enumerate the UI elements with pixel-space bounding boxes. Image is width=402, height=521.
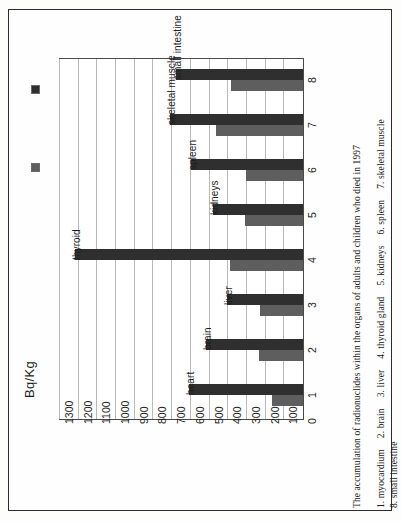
category-band — [60, 194, 303, 239]
caption-key-item: 8. small intestine — [389, 67, 399, 508]
plot-area — [59, 58, 304, 420]
bar-children — [170, 114, 303, 125]
bar-label: small intestine — [172, 15, 183, 80]
bar-children — [213, 204, 303, 215]
bar-children — [227, 294, 303, 305]
caption-key-item: 1. myocardium — [376, 449, 386, 508]
caption-main-text: The accumulation of radionuclides within… — [352, 56, 362, 508]
bar-adults — [259, 350, 303, 361]
value-tick-label: 1300 — [63, 401, 75, 424]
category-tick-5: 5 — [306, 208, 318, 222]
category-tick-1: 1 — [306, 388, 318, 402]
bar-children — [75, 249, 303, 260]
value-tick-label: 1200 — [82, 401, 94, 424]
category-band — [60, 239, 303, 284]
bar-children — [206, 339, 303, 350]
category-tick-7: 7 — [306, 118, 318, 132]
bar-label: spleen — [187, 140, 198, 170]
category-band — [60, 329, 303, 374]
category-tick-4: 4 — [306, 253, 318, 267]
value-tick-label: 0 — [306, 418, 318, 424]
caption-key-item: 5. kidneys — [376, 246, 386, 286]
bar-children — [191, 159, 303, 170]
value-tick-label: 100 — [287, 406, 299, 424]
value-tick-label: 400 — [231, 406, 243, 424]
value-tick-label: 500 — [213, 406, 225, 424]
figure-caption: The accumulation of radionuclides within… — [352, 56, 399, 508]
legend-item-adults: adults — [22, 102, 52, 172]
category-band — [60, 284, 303, 329]
bar-adults — [246, 170, 303, 181]
value-tick-label: 1000 — [119, 401, 131, 424]
legend-swatch-adults — [31, 163, 40, 172]
bar-label: thyroid — [71, 229, 82, 260]
caption-key-item: 3. liver — [376, 370, 386, 398]
category-tick-3: 3 — [306, 298, 318, 312]
legend-swatch-children — [31, 85, 40, 94]
value-tick-label: 200 — [269, 406, 281, 424]
category-band — [60, 149, 303, 194]
figure-root: children adults Bq/Kg The accumulation o… — [0, 0, 402, 521]
bar-label: liver — [223, 286, 234, 305]
bar-adults — [231, 80, 303, 91]
value-tick-label: 600 — [194, 406, 206, 424]
bar-adults — [230, 260, 303, 271]
value-axis-title: Bq/Kg — [22, 361, 37, 398]
caption-key-item: 7. skeletal muscle — [376, 119, 386, 189]
caption-key-list: 1. myocardium2. brain3. liver4. thyroid … — [376, 56, 399, 508]
value-tick-label: 700 — [175, 406, 187, 424]
value-tick-label: 1100 — [100, 401, 112, 424]
bar-adults — [245, 215, 303, 226]
bar-adults — [260, 305, 303, 316]
value-tick-label: 300 — [250, 406, 262, 424]
bar-adults — [272, 395, 303, 406]
caption-key-item: 2. brain — [376, 408, 386, 438]
category-tick-8: 8 — [306, 73, 318, 87]
bar-label: kidneys — [209, 180, 220, 215]
value-tick-label: 900 — [138, 406, 150, 424]
bar-children — [176, 69, 303, 80]
category-tick-2: 2 — [306, 343, 318, 357]
bar-label: heart — [185, 372, 196, 395]
chart-legend: children adults — [22, 24, 52, 184]
legend-item-children: children — [22, 24, 52, 94]
bar-label: brain — [202, 327, 213, 350]
category-band — [60, 104, 303, 149]
bar-children — [189, 384, 303, 395]
caption-key-item: 6. spleen — [376, 200, 386, 235]
caption-key-item: 4. thyroid gland — [376, 297, 386, 359]
category-tick-6: 6 — [306, 163, 318, 177]
bar-adults — [216, 125, 303, 136]
value-tick-label: 800 — [156, 406, 168, 424]
